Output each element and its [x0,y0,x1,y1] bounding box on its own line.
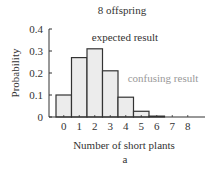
panel-label: a [123,153,128,165]
y-axis: 00.10.20.30.4 [29,23,52,123]
x-tick-label: 1 [77,120,83,132]
y-tick-label: 0.1 [29,89,43,101]
y-tick-label: 0 [38,111,44,123]
bar-1 [72,58,88,117]
x-tick-label: 7 [170,120,176,132]
x-tick-label: 2 [92,120,98,132]
x-tick-label: 0 [61,120,67,132]
y-axis-label: Probability [9,48,21,97]
annotation-expected-result: expected result [92,31,158,43]
bar-0 [56,95,72,117]
x-axis: 012345678 [49,115,205,132]
y-tick-label: 0.2 [29,67,43,79]
chart-title: 8 offspring [98,4,147,16]
bar-2 [87,49,103,117]
x-tick-label: 4 [123,120,129,132]
y-tick-label: 0.3 [29,45,43,57]
probability-bar-chart: 8 offspring 00.10.20.30.4 012345678 expe… [0,0,212,170]
x-tick-label: 5 [139,120,145,132]
bar-4 [118,97,134,117]
x-tick-label: 6 [154,120,160,132]
annotation-confusing-result: confusing result [128,72,199,84]
y-tick-label: 0.4 [29,23,43,35]
x-tick-label: 8 [185,120,191,132]
x-tick-label: 3 [108,120,114,132]
x-axis-label: Number of short plants [73,139,175,151]
bar-3 [103,71,119,117]
